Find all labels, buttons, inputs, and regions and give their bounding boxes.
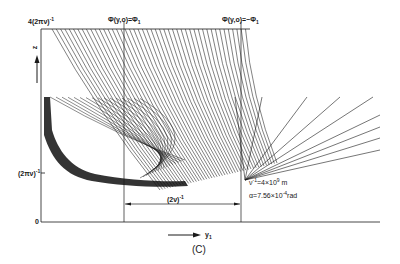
zero-label-text: 0 [35, 218, 39, 225]
param-alpha-unit: rad [287, 192, 297, 199]
param-nu-unit: m [280, 179, 288, 186]
z-arrow-head [35, 55, 40, 63]
top-axis-label-exp: -1 [50, 16, 54, 22]
span-arrow-left-head [125, 203, 131, 206]
figure-caption-text: (C) [192, 244, 206, 255]
z-axis-label-text: z [31, 46, 38, 50]
parameter-alpha: α=7.56×10-4rad [249, 191, 297, 199]
x-axis-label-sub: 1 [209, 234, 212, 240]
mid-axis-label: (2πν)-1 [18, 169, 40, 177]
ray-trajectory-diagram [0, 0, 400, 264]
figure-caption: (C) [192, 244, 206, 255]
zero-label: 0 [35, 218, 39, 225]
marker-label-neg-phi1-sub: 1 [256, 19, 259, 25]
mid-axis-label-text: (2πν) [18, 170, 36, 177]
z-axis-label: z [31, 46, 38, 50]
marker-label-phi1: Φ(y,o)=Φ1 [108, 16, 141, 25]
y1-arrow-head [193, 233, 201, 238]
span-label-exp: -1 [179, 194, 183, 200]
top-axis-label-text: 4(2πν) [28, 18, 50, 25]
fan-ray-family [235, 97, 380, 180]
param-alpha-value: α=7.56×10 [249, 192, 283, 199]
marker-label-phi1-sub: 1 [138, 19, 141, 25]
param-nu-value: =4×10 [257, 179, 277, 186]
span-label: (2ν)-1 [167, 195, 184, 203]
parameter-nu: ν-1=4×109 m [249, 178, 287, 186]
mid-axis-label-exp: -1 [36, 168, 40, 174]
marker-label-phi1-text: Φ(y,o)=Φ [108, 16, 138, 23]
marker-label-neg-phi1: Φ(y,o)=−Φ1 [222, 16, 259, 25]
top-axis-label: 4(2πν)-1 [28, 17, 54, 25]
x-axis-label: y1 [205, 231, 212, 240]
span-arrow-right-head [234, 203, 240, 206]
marker-label-neg-phi1-text: Φ(y,o)=−Φ [222, 16, 256, 23]
span-label-text: (2ν) [167, 196, 179, 203]
